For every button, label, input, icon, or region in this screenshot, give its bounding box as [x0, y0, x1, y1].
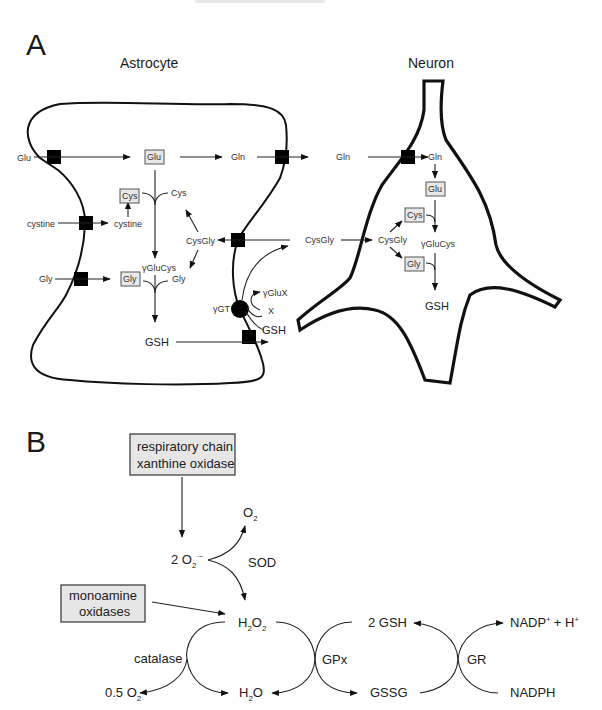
- label-cystine-int: cystine: [114, 219, 142, 229]
- astrocyte-title: Astrocyte: [120, 55, 179, 71]
- label-cys-box: Cys: [122, 191, 138, 201]
- panel-a-label: A: [26, 28, 46, 61]
- label-2gsh: 2 GSH: [368, 615, 407, 630]
- label-gln: Gln: [231, 152, 245, 162]
- neuron-cys-merge: [426, 215, 435, 222]
- arrow-neuron-cysgly-cys: [390, 221, 402, 232]
- label-respiratory-chain: respiratory chain: [137, 439, 233, 454]
- label-cys: Cys: [171, 188, 187, 198]
- label-ggt: γGT: [213, 304, 231, 314]
- neuron-membrane: [298, 81, 560, 383]
- arrow-catalase-h2o: [187, 659, 228, 693]
- label-monoamine: monoamine: [69, 588, 137, 603]
- label-oxidases: oxidases: [79, 604, 131, 619]
- arrow-gr-gsh: [414, 623, 458, 693]
- label-neuron-cysgly: CysGly: [378, 235, 407, 245]
- label-glux: γGluX: [263, 288, 288, 298]
- label-o2: O2: [243, 505, 258, 523]
- label-neuron-gln: Gln: [428, 152, 442, 162]
- label-gln-extracellular: Gln: [336, 152, 350, 162]
- label-half-o2: 0.5 O2: [105, 685, 142, 703]
- label-glu-box: Glu: [147, 152, 161, 162]
- arrow-neuron-cysgly-gly: [390, 247, 402, 258]
- label-nadph: NADPH: [510, 685, 556, 700]
- ggt-enzyme: [231, 300, 249, 318]
- label-cysgly: CysGly: [186, 236, 215, 246]
- arrow-ggt-glux: [251, 292, 260, 310]
- arrow-cysgly-cys: [186, 210, 198, 232]
- label-cysgly-extracellular: CysGly: [305, 235, 334, 245]
- label-neuron-cys: Cys: [407, 210, 423, 220]
- neuron-gly-merge: [426, 263, 435, 270]
- panel-b: B respiratory chain xanthine oxidase O2 …: [26, 425, 579, 703]
- label-gpx: GPx: [322, 652, 348, 667]
- arrow-cysgly-gly: [190, 250, 198, 268]
- label-neuron-glucys: γGluCys: [421, 239, 456, 249]
- label-sod: SOD: [248, 555, 276, 570]
- arrow-mao-h2o2: [152, 602, 225, 614]
- panel-a: A Astrocyte Neuron Glu Glu Gln cystine c…: [17, 28, 560, 384]
- label-xanthine-oxidase: xanthine oxidase: [137, 456, 235, 471]
- label-neuron-gly: Gly: [407, 259, 421, 269]
- label-gssg: GSSG: [370, 685, 408, 700]
- label-h2o2: H2O2: [238, 615, 267, 633]
- arrow-sod-o2: [208, 526, 245, 560]
- arrow-sod-h2o2: [208, 560, 245, 600]
- label-gly-ext: Gly: [39, 274, 53, 284]
- label-x: X: [268, 306, 274, 316]
- label-neuron-gsh: GSH: [425, 300, 449, 312]
- label-gsh: GSH: [145, 336, 169, 348]
- panel-b-label: B: [26, 425, 46, 458]
- label-gsh-ext: GSH: [262, 324, 286, 336]
- label-h2o: H2O: [239, 685, 263, 703]
- figure-canvas: A Astrocyte Neuron Glu Glu Gln cystine c…: [0, 0, 602, 710]
- label-superoxide: 2 O2·−: [171, 552, 203, 570]
- label-gr: GR: [467, 652, 487, 667]
- label-neuron-glu: Glu: [428, 184, 442, 194]
- arrow-gpx-h2o: [272, 622, 315, 693]
- label-glu-ext: Glu: [17, 153, 31, 163]
- label-nadp: NADP+ + H+: [510, 615, 579, 630]
- label-catalase: catalase: [134, 651, 182, 666]
- label-cystine-ext: cystine: [27, 219, 55, 229]
- label-gly-box: Gly: [123, 274, 137, 284]
- cropped-caption-strip: [195, 0, 325, 3]
- label-glucys: γGluCys: [142, 263, 177, 273]
- neuron-title: Neuron: [408, 55, 454, 71]
- label-gly: Gly: [172, 274, 186, 284]
